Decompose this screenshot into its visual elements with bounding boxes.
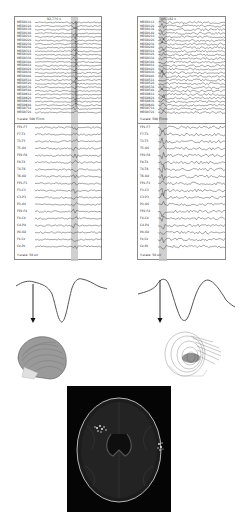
mri-axial-slice (67, 386, 171, 512)
eeg-channel-label: Cz-Pz (17, 245, 25, 248)
signal-trace (35, 98, 102, 101)
signal-trace (158, 174, 225, 180)
signal-trace (158, 181, 225, 185)
signal-trace (35, 28, 102, 30)
eeg-channel-label: Fz-Cz (140, 238, 148, 241)
signal-trace (35, 53, 102, 56)
left-meg-eeg-panel: 92,776 s MEG0111MEG0121MEG0131MEG0141MEG… (14, 16, 102, 260)
signal-trace (35, 189, 102, 193)
signal-trace (35, 175, 102, 178)
signal-trace (35, 209, 102, 213)
signal-trace (35, 47, 102, 49)
signal-trace (158, 231, 225, 234)
signal-trace (158, 36, 225, 40)
left-averaged-waveform (12, 272, 107, 327)
eeg-channel-label: T4-T6 (17, 168, 25, 171)
signal-trace (35, 22, 102, 24)
signal-trace (35, 161, 102, 164)
panel-time-label: 92,776 s (47, 17, 61, 21)
eeg-channel-label: F8-T4 (17, 161, 25, 164)
signal-trace (35, 111, 102, 113)
signal-trace (158, 224, 225, 229)
signal-trace (35, 78, 102, 82)
signal-trace (35, 246, 102, 249)
eeg-channel-label: C3-P3 (17, 196, 26, 199)
signal-trace (35, 49, 102, 51)
meg-channel-label: MEG0721 (140, 111, 154, 114)
signal-trace (158, 145, 225, 150)
signal-trace (158, 38, 225, 43)
right-meg-eeg-panel: 105,182 s MEG0111MEG0121MEG0131MEG0141ME… (137, 16, 226, 260)
eeg-channel-label: FP2-F4 (140, 210, 150, 213)
meg-channel-label: MEG0721 (17, 111, 31, 114)
eeg-channel-label: C4-P4 (140, 224, 149, 227)
eeg-channel-label: C3-P3 (140, 196, 149, 199)
signal-trace (35, 72, 102, 73)
signal-trace (158, 210, 225, 217)
signal-trace (158, 152, 225, 158)
eeg-channel-label: FP2-F8 (17, 154, 27, 157)
signal-trace (35, 26, 102, 29)
signal-trace (35, 133, 102, 135)
signal-trace (35, 232, 102, 234)
signal-trace (35, 127, 102, 130)
signal-trace (35, 43, 102, 45)
eeg-scale-label: Y-scale: 50 uV (140, 253, 161, 257)
signal-trace (158, 32, 225, 35)
signal-trace (158, 138, 225, 144)
eeg-channel-label: F8-T4 (140, 161, 148, 164)
right-head-field-map (163, 328, 228, 380)
signal-trace (158, 89, 225, 92)
signal-trace (35, 239, 102, 242)
signal-trace (35, 103, 102, 106)
signal-trace (158, 165, 225, 173)
signal-trace (35, 68, 102, 71)
signal-trace (35, 35, 102, 38)
eeg-channel-label: FP1-F7 (140, 126, 150, 129)
eeg-scale-label: Y-scale: 50 uV (17, 253, 38, 257)
signal-trace (35, 76, 102, 79)
signal-trace (35, 40, 102, 42)
arrow-head-icon (158, 318, 163, 323)
eeg-channel-label: T3-T5 (17, 140, 25, 143)
signal-trace (35, 147, 102, 150)
signal-trace (158, 42, 225, 45)
eeg-channel-label: T4-T6 (140, 168, 148, 171)
signal-trace (35, 101, 102, 103)
eeg-channel-label: F4-C4 (140, 217, 149, 220)
eeg-channel-label: FP1-F3 (140, 182, 150, 185)
signal-trace (158, 53, 225, 56)
signal-trace (35, 57, 102, 60)
eeg-channel-label: FP1-F3 (17, 182, 27, 185)
signal-trace (158, 201, 225, 205)
signal-trace (158, 108, 225, 111)
section-divider (138, 123, 225, 124)
eeg-channel-label: P4-O2 (140, 231, 149, 234)
eeg-channel-label: F7-T3 (17, 133, 25, 136)
signal-trace (35, 154, 102, 158)
signal-trace (158, 47, 225, 51)
signal-trace (158, 65, 225, 67)
eeg-channel-label: F3-C3 (17, 189, 26, 192)
signal-trace (35, 224, 102, 228)
section-divider (15, 123, 101, 124)
signal-trace (158, 216, 225, 221)
eeg-channel-label: F7-T3 (140, 133, 148, 136)
meg-scale-label: Y-scale: 500 fT/cm (140, 117, 167, 121)
eeg-channel-label: T3-T5 (140, 140, 148, 143)
eeg-channel-label: P3-O1 (17, 203, 26, 206)
eeg-channel-label: FP2-F4 (17, 210, 27, 213)
signal-trace (35, 197, 102, 200)
eeg-channel-label: F4-C4 (17, 217, 26, 220)
signal-trace (35, 169, 102, 172)
signal-trace (158, 193, 225, 199)
right-averaged-waveform (136, 272, 236, 332)
signal-trace (158, 83, 225, 85)
signal-trace (158, 245, 225, 249)
signal-trace (158, 99, 225, 103)
signal-trace (35, 107, 102, 110)
signal-trace (35, 82, 102, 84)
signal-trace (158, 126, 225, 132)
eeg-channel-label: T5-O1 (17, 147, 26, 150)
signal-trace (158, 57, 225, 59)
